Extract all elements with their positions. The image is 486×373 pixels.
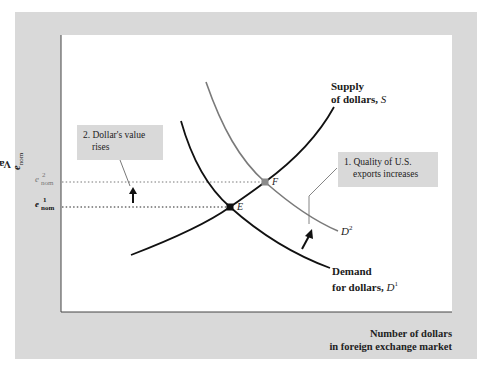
y-axis-title-var: e: [11, 165, 22, 170]
tick-e2-sup: 2: [42, 171, 46, 179]
note-quality-line1: 1. Quality of U.S.: [344, 156, 432, 168]
tick-e1: e 1 nom: [35, 199, 57, 213]
note-quality-line2: exports increases: [344, 168, 432, 180]
supply-curve-label: Supply of dollars, S: [331, 80, 386, 106]
y-axis-title-text: Value of U.S. dollar,: [0, 159, 11, 170]
d2-label-var: D: [341, 225, 349, 237]
equilibrium-point-e: [227, 204, 234, 211]
demand-label-line2: for dollars,: [332, 281, 387, 293]
demand-label-sup: 1: [394, 280, 398, 288]
demand-curve-label: Demand for dollars, D1: [332, 265, 398, 294]
tick-e2-var: e: [35, 174, 39, 184]
note-dollar-value-rises: 2. Dollar's value rises: [77, 125, 163, 160]
tick-e1-var: e: [35, 199, 39, 209]
note-value-line2: rises: [83, 141, 157, 153]
tick-e2-sub: nom: [41, 179, 53, 187]
x-axis-title: Number of dollars in foreign exchange ma…: [329, 327, 452, 353]
d2-label-sup: 2: [349, 224, 353, 232]
point-label-e: E: [237, 201, 243, 212]
supply-label-line2: of dollars,: [331, 93, 381, 105]
demand-label-line1: Demand: [332, 265, 398, 278]
tick-e1-sup: 1: [43, 196, 47, 204]
point-label-f: F: [272, 176, 278, 187]
note-quality-increases: 1. Quality of U.S. exports increases: [338, 152, 438, 187]
y-axis-title-sub: nom: [17, 153, 25, 165]
supply-label-var: S: [381, 93, 387, 105]
x-axis-title-line2: in foreign exchange market: [329, 340, 452, 353]
supply-label-line1: Supply: [331, 80, 386, 93]
x-axis-title-line1: Number of dollars: [329, 327, 452, 340]
tick-e1-sub: nom: [41, 204, 54, 212]
note-value-line1: 2. Dollar's value: [83, 129, 157, 141]
tick-e2: e 2 nom: [35, 174, 57, 188]
d2-curve-label: D2: [341, 224, 352, 237]
equilibrium-point-f: [262, 179, 269, 186]
